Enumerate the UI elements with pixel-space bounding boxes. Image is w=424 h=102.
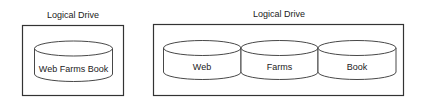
disk-cylinder-web: Web (164, 41, 242, 80)
disk-cylinder-book: Book (318, 41, 396, 80)
disk-cylinder: Web Farms Book (35, 41, 113, 82)
logical-drive-diagram: Logical Drive Web Farms Book Logical Dri… (0, 0, 424, 102)
disk-label: Web (193, 62, 211, 72)
right-logical-drive: Logical Drive Web Farms Book (154, 9, 404, 96)
left-group-title: Logical Drive (47, 10, 99, 20)
disk-cylinder-farms: Farms (241, 41, 318, 80)
disk-label: Book (347, 62, 368, 72)
right-group-title: Logical Drive (253, 9, 305, 19)
left-logical-drive: Logical Drive Web Farms Book (23, 10, 124, 96)
disk-label: Web Farms Book (39, 64, 109, 74)
disk-label: Farms (267, 62, 293, 72)
